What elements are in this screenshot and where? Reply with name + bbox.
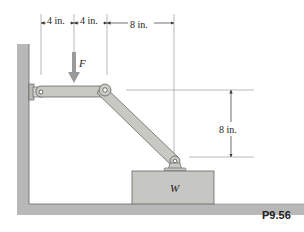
- weight-label: W: [170, 182, 180, 194]
- pin-icon: [103, 88, 107, 92]
- dimension-label-top-2: 4 in.: [80, 15, 98, 26]
- dimension-label-vertical: 8 in.: [219, 124, 237, 135]
- pin-icon: [39, 90, 43, 94]
- dimension-label-top-1: 4 in.: [47, 15, 65, 26]
- force-label: F: [78, 57, 86, 69]
- dimension-label-top-3: 8 in.: [130, 19, 148, 30]
- mechanism-diagram: 4 in. 4 in. 8 in. 8 in. W F P9.56: [0, 0, 304, 232]
- pin-icon: [173, 159, 177, 163]
- diagonal-member: [97, 84, 180, 166]
- figure-label: P9.56: [262, 209, 291, 221]
